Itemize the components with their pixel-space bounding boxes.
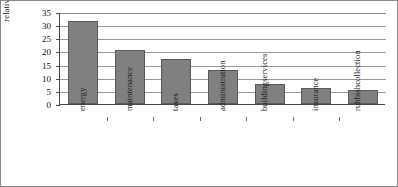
y-tick-mark (56, 26, 60, 27)
gridline (60, 13, 386, 14)
gridline (60, 26, 386, 27)
y-tick-mark (56, 79, 60, 80)
y-tick-label: 5 (17, 87, 51, 96)
y-tick-mark (56, 105, 60, 106)
y-axis-title: relative costs [%] (1, 0, 15, 39)
x-axis-label-line: insurance (310, 78, 320, 111)
x-axis-label-line: rubbish (352, 85, 362, 111)
x-tick-mark (339, 117, 340, 121)
gridline (60, 52, 386, 53)
bar-chart-figure: relative costs [%] 35302520151050 energy… (0, 0, 398, 187)
x-axis-label-line: energy (77, 87, 87, 111)
y-tick-label: 15 (17, 61, 51, 70)
x-axis-label-line: building (259, 82, 269, 111)
y-tick-label: 25 (17, 35, 51, 44)
x-tick-mark (246, 117, 247, 121)
x-axis-label-line: collection (352, 50, 362, 85)
y-tick-label: 0 (17, 101, 51, 110)
x-tick-mark (200, 117, 201, 121)
y-tick-label: 20 (17, 48, 51, 57)
y-tick-label: 30 (17, 22, 51, 31)
x-axis-label-line: services (259, 54, 269, 82)
y-tick-mark (56, 52, 60, 53)
y-tick-mark (56, 66, 60, 67)
x-axis-label-line: taxes (170, 93, 180, 111)
gridline (60, 39, 386, 40)
x-axis-label-line: maintenance (124, 67, 134, 111)
y-tick-label: 35 (17, 9, 51, 18)
x-tick-mark (153, 117, 154, 121)
y-tick-label: 10 (17, 74, 51, 83)
y-tick-mark (56, 92, 60, 93)
x-tick-mark (293, 117, 294, 121)
y-tick-mark (56, 39, 60, 40)
y-tick-mark (56, 13, 60, 14)
x-axis-label-line: administration (217, 60, 227, 111)
x-tick-mark (107, 117, 108, 121)
